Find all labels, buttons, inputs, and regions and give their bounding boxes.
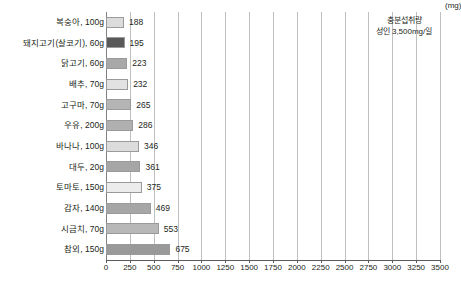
bar-container: 223 — [106, 53, 146, 74]
x-tick-label: 2750 — [360, 264, 378, 272]
bar-container: 265 — [106, 95, 150, 116]
x-tick-label: 250 — [123, 264, 136, 272]
bar-row: 시금치, 70g553 — [0, 219, 460, 240]
bar-container: 232 — [106, 74, 147, 95]
category-label: 돼지고기(살코기), 60g — [0, 39, 104, 48]
bar — [106, 244, 170, 255]
x-axis-ticks: 0250500750100012501500175020002250250027… — [0, 262, 460, 276]
bar-container: 375 — [106, 177, 161, 198]
bar-value-label: 346 — [144, 142, 158, 151]
bar-rows: 복숭아, 100g188돼지고기(살코기), 60g195닭고기, 60g223… — [0, 12, 460, 260]
bar-container: 346 — [106, 136, 158, 157]
category-label: 우유, 200g — [0, 121, 104, 130]
bar-row: 닭고기, 60g223 — [0, 53, 460, 74]
bar — [106, 37, 125, 48]
x-axis-unit-label: (mg) — [445, 2, 461, 10]
x-tick-label: 2250 — [312, 264, 330, 272]
x-tick-label: 2000 — [288, 264, 306, 272]
bar-value-label: 553 — [164, 225, 178, 234]
x-tick-label: 1000 — [193, 264, 211, 272]
category-label: 시금치, 70g — [0, 225, 104, 234]
category-label: 바나나, 100g — [0, 142, 104, 151]
bar-container: 195 — [106, 33, 144, 54]
annotation-line-2: 성인 3,500mg/일 — [352, 27, 456, 38]
bar-row: 참외, 150g675 — [0, 239, 460, 260]
bar — [106, 203, 151, 214]
bar-container: 675 — [106, 239, 190, 260]
bar-container: 469 — [106, 198, 170, 219]
bar-value-label: 375 — [147, 183, 161, 192]
x-tick-label: 3250 — [407, 264, 425, 272]
x-tick-label: 0 — [104, 264, 108, 272]
bar-container: 188 — [106, 12, 143, 33]
x-tick-label: 1500 — [240, 264, 258, 272]
category-label: 토마토, 150g — [0, 183, 104, 192]
bar-value-label: 195 — [130, 39, 144, 48]
bar-value-label: 188 — [129, 18, 143, 27]
x-tick-label: 3500 — [431, 264, 449, 272]
category-label: 고구마, 70g — [0, 101, 104, 110]
bar-row: 우유, 200g286 — [0, 115, 460, 136]
bar — [106, 99, 131, 110]
x-tick-label: 1750 — [264, 264, 282, 272]
category-label: 복숭아, 100g — [0, 18, 104, 27]
bar-value-label: 361 — [145, 163, 159, 172]
category-label: 감자, 140g — [0, 204, 104, 213]
bar-row: 고구마, 70g265 — [0, 95, 460, 116]
bar — [106, 58, 127, 69]
bar — [106, 182, 142, 193]
bar-container: 286 — [106, 115, 152, 136]
annotation-line-1: 충분섭취량 — [352, 16, 456, 27]
bar-value-label: 265 — [136, 101, 150, 110]
bar-container: 553 — [106, 219, 178, 240]
bar-row: 감자, 140g469 — [0, 198, 460, 219]
bar — [106, 161, 140, 172]
bar — [106, 17, 124, 28]
bar-row: 바나나, 100g346 — [0, 136, 460, 157]
bar-value-label: 232 — [133, 80, 147, 89]
x-tick-label: 3000 — [383, 264, 401, 272]
bar-container: 361 — [106, 157, 160, 178]
x-tick-label: 1250 — [216, 264, 234, 272]
bar-row: 배추, 70g232 — [0, 74, 460, 95]
category-label: 닭고기, 60g — [0, 59, 104, 68]
x-tick-label: 500 — [147, 264, 160, 272]
bar — [106, 223, 159, 234]
bar — [106, 120, 133, 131]
category-label: 대두, 20g — [0, 163, 104, 172]
bar-row: 대두, 20g361 — [0, 157, 460, 178]
bar-value-label: 286 — [138, 121, 152, 130]
bar-row: 토마토, 150g375 — [0, 177, 460, 198]
bar — [106, 141, 139, 152]
x-tick-label: 2500 — [336, 264, 354, 272]
x-tick-label: 750 — [171, 264, 184, 272]
category-label: 참외, 150g — [0, 245, 104, 254]
bar-value-label: 223 — [132, 59, 146, 68]
bar — [106, 79, 128, 90]
adequate-intake-annotation: 충분섭취량 성인 3,500mg/일 — [352, 16, 456, 38]
bar-value-label: 469 — [156, 204, 170, 213]
bar-value-label: 675 — [175, 245, 189, 254]
category-label: 배추, 70g — [0, 80, 104, 89]
